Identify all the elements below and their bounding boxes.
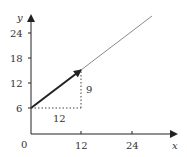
y-tick-label-24: 24: [10, 28, 23, 39]
origin-label: 0: [21, 139, 27, 150]
x-tick-label-12: 12: [75, 140, 88, 151]
y-tick-label-6: 6: [16, 103, 22, 114]
rise-label: 9: [86, 84, 92, 95]
y-axis-label: y: [16, 12, 23, 23]
y-tick-label-12: 12: [10, 78, 23, 89]
run-label: 12: [53, 113, 66, 124]
chart-canvas: y x 0 6 12 18 24 12 24 12 9: [0, 0, 187, 157]
x-tick-label-24: 24: [126, 140, 139, 151]
x-axis-label: x: [172, 140, 178, 151]
y-tick-label-18: 18: [10, 53, 23, 64]
slope-vector-arrow: [31, 70, 81, 108]
